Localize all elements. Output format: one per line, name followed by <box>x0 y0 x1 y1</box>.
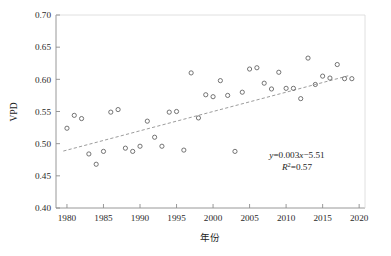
data-point <box>233 149 237 153</box>
data-point <box>94 162 98 166</box>
x-tick-label: 2000 <box>204 213 223 223</box>
data-point <box>284 86 288 90</box>
data-point <box>211 95 215 99</box>
data-point <box>342 77 346 81</box>
data-point <box>116 107 120 111</box>
data-point <box>145 119 149 123</box>
y-tick-label: 0.40 <box>35 203 51 213</box>
data-point <box>299 97 303 101</box>
x-tick-label: 1980 <box>58 213 77 223</box>
x-axis-title: 年份 <box>200 232 220 243</box>
data-point <box>291 86 295 90</box>
x-tick-label: 1995 <box>167 213 186 223</box>
data-point <box>189 71 193 75</box>
data-point <box>101 149 105 153</box>
y-tick-label: 0.45 <box>35 171 51 181</box>
data-point <box>328 76 332 80</box>
data-point <box>247 67 251 71</box>
chart-figure: 0.400.450.500.550.600.650.70 19801985199… <box>0 0 391 256</box>
data-point <box>277 70 281 74</box>
data-point <box>153 135 157 139</box>
equation-annotation: y=0.003x−5.51 R2=0.57 <box>268 150 325 172</box>
data-point <box>72 113 76 117</box>
r2-value: =0.57 <box>291 162 313 172</box>
y-tick-label: 0.65 <box>35 42 51 52</box>
data-point <box>218 79 222 83</box>
data-point <box>255 66 259 70</box>
data-point <box>321 74 325 78</box>
x-tick-label: 2015 <box>313 213 332 223</box>
data-point <box>160 144 164 148</box>
data-point <box>226 93 230 97</box>
data-point <box>87 152 91 156</box>
y-tick-label: 0.50 <box>35 139 51 149</box>
equation-tail: −5.51 <box>303 150 325 160</box>
x-axis-ticks: 198019851990199520002005201020152020 <box>58 204 369 223</box>
y-tick-label: 0.60 <box>35 75 51 85</box>
data-point <box>79 116 83 120</box>
plot-frame <box>56 15 365 208</box>
r-squared-text: R2=0.57 <box>281 161 312 173</box>
data-point <box>204 93 208 97</box>
trendline-group <box>63 76 348 151</box>
data-point <box>196 116 200 120</box>
data-point <box>335 62 339 66</box>
data-point <box>65 126 69 130</box>
regression-equation-text: y=0.003x−5.51 <box>268 150 325 160</box>
x-tick-label: 1990 <box>131 213 150 223</box>
equation-body: =0.003 <box>273 150 299 160</box>
data-point <box>306 56 310 60</box>
regression-trendline <box>63 76 348 151</box>
x-tick-label: 2020 <box>350 213 369 223</box>
data-point <box>123 146 127 150</box>
data-point <box>131 149 135 153</box>
scatter-plot-canvas: 0.400.450.500.550.600.650.70 19801985199… <box>0 0 391 256</box>
data-point <box>167 110 171 114</box>
data-point <box>240 90 244 94</box>
data-point <box>262 81 266 85</box>
x-tick-label: 2010 <box>277 213 296 223</box>
data-point <box>269 87 273 91</box>
x-tick-label: 1985 <box>94 213 113 223</box>
data-point <box>174 109 178 113</box>
data-point <box>350 77 354 81</box>
y-tick-label: 0.70 <box>35 10 51 20</box>
y-tick-label: 0.55 <box>35 107 51 117</box>
data-point <box>182 148 186 152</box>
data-point <box>138 144 142 148</box>
data-point <box>109 110 113 114</box>
x-tick-label: 2005 <box>240 213 259 223</box>
y-axis-title: VPD <box>8 102 19 121</box>
